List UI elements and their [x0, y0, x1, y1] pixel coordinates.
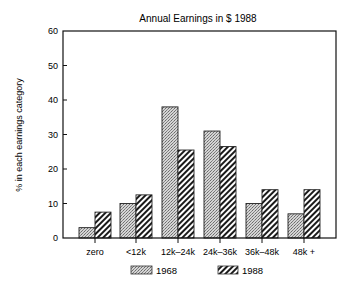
x-axis-ticks: zero<12k12k–24k24k–36k36k–48k48k + [86, 238, 315, 257]
legend: 1968 1988 [131, 265, 263, 276]
bar-1968 [120, 204, 136, 239]
legend-label-1968: 1968 [156, 265, 177, 276]
bar-1988 [95, 212, 111, 238]
bar-1988 [220, 147, 236, 238]
bar-1988 [136, 195, 152, 238]
bars [79, 107, 320, 238]
y-tick-label: 40 [48, 95, 58, 105]
bar-1988 [262, 190, 278, 238]
legend-swatch-1968 [131, 266, 152, 274]
chart-title: Annual Earnings in $ 1988 [139, 13, 257, 24]
bar-1968 [246, 204, 262, 239]
y-tick-label: 0 [53, 233, 58, 243]
y-tick-label: 50 [48, 61, 58, 71]
x-tick-label: zero [86, 247, 104, 257]
bar-1968 [288, 214, 304, 238]
legend-swatch-1988 [218, 266, 238, 274]
y-axis-ticks: 0102030405060 [48, 26, 67, 243]
x-tick-label: 48k + [293, 247, 315, 257]
x-tick-label: 12k–24k [161, 247, 196, 257]
y-axis-label: % in each earnings category [14, 78, 24, 192]
bar-1968 [204, 131, 220, 238]
y-tick-label: 60 [48, 26, 58, 36]
y-tick-label: 10 [48, 199, 58, 209]
plot-frame [63, 31, 336, 238]
bar-1968 [162, 107, 178, 238]
bar-chart: Annual Earnings in $ 1988 % in each earn… [0, 0, 354, 291]
y-tick-label: 30 [48, 130, 58, 140]
legend-label-1988: 1988 [242, 265, 263, 276]
x-tick-label: <12k [126, 247, 146, 257]
x-tick-label: 36k–48k [245, 247, 280, 257]
y-tick-label: 20 [48, 164, 58, 174]
x-tick-label: 24k–36k [203, 247, 238, 257]
bar-1988 [178, 150, 194, 238]
bar-1988 [304, 190, 320, 238]
bar-1968 [79, 228, 95, 238]
